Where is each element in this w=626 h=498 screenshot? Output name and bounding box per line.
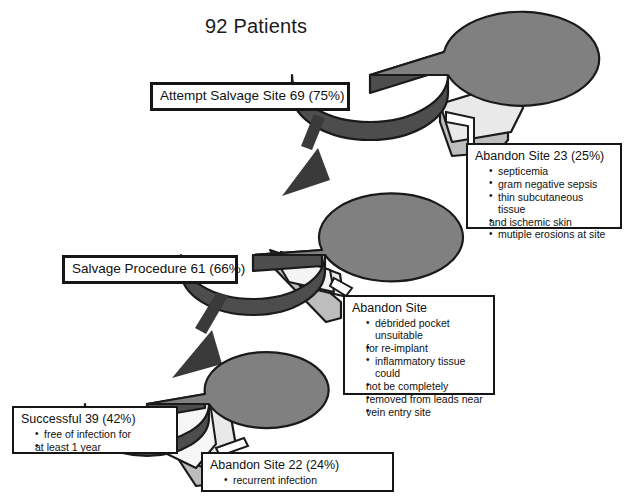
list-item-line: not be completely <box>366 380 486 392</box>
list-item-continuation: not be completely <box>366 380 486 392</box>
list-item-line: vein entry site <box>366 406 486 418</box>
list-item-line: for re-implant <box>366 342 486 354</box>
callout-abandon-site-2-label: Abandon Site <box>352 301 486 316</box>
diagram-canvas: 92 Patients Attempt Salvage Site 69 (75%… <box>0 0 626 498</box>
callout-abandon-site-3-bullets: recurrent infection <box>210 474 385 486</box>
callout-successful-label: Successful 39 (42%) <box>21 412 169 427</box>
list-item-continuation: removed from leads near <box>366 393 486 405</box>
list-item-line: free of infection for <box>44 428 131 440</box>
pie-1-main-slice-top <box>370 12 599 106</box>
callout-abandon-site-3-label: Abandon Site 22 (24%) <box>210 458 385 473</box>
list-item-continuation: at least 1 year <box>35 441 169 453</box>
callout-successful[interactable]: Successful 39 (42%) free of infection fo… <box>12 406 178 454</box>
list-item: septicemia <box>489 165 613 177</box>
callout-abandon-site-1-bullets: septicemia gram negative sepsis thin sub… <box>475 165 613 241</box>
list-item-continuation: and ischemic skin <box>489 216 613 228</box>
list-item-line: inflammatory tissue could <box>375 355 465 379</box>
callout-abandon-site-3[interactable]: Abandon Site 22 (24%) recurrent infectio… <box>201 452 394 492</box>
list-item-continuation: for re-implant <box>366 342 486 354</box>
list-item-continuation: vein entry site <box>366 406 486 418</box>
list-item: inflammatory tissue could <box>366 355 486 380</box>
callout-attempt-salvage-site-label: Attempt Salvage Site 69 (75%) <box>160 88 345 104</box>
list-item: gram negative sepsis <box>489 178 613 190</box>
callout-abandon-site-1-label: Abandon Site 23 (25%) <box>475 149 613 164</box>
list-item: thin subcutaneous tissue <box>489 191 613 216</box>
list-item-line: débrided pocket unsuitable <box>375 317 450 341</box>
callout-salvage-procedure[interactable]: Salvage Procedure 61 (66%) <box>62 255 238 284</box>
list-item-line: and ischemic skin <box>489 216 613 228</box>
list-item: free of infection for <box>35 428 169 440</box>
list-item-line: at least 1 year <box>35 441 169 453</box>
list-item: débrided pocket unsuitable <box>366 317 486 342</box>
list-item-line: removed from leads near <box>366 393 486 405</box>
list-item: recurrent infection <box>224 474 385 486</box>
callout-successful-bullets: free of infection for at least 1 year <box>21 428 169 453</box>
callout-abandon-site-2[interactable]: Abandon Site débrided pocket unsuitable … <box>343 295 495 395</box>
callout-salvage-procedure-label: Salvage Procedure 61 (66%) <box>72 261 245 277</box>
list-item-line: thin subcutaneous tissue <box>498 191 583 215</box>
callout-abandon-site-1[interactable]: Abandon Site 23 (25%) septicemia gram ne… <box>466 143 622 229</box>
list-item: mutiple erosions at site <box>489 228 613 240</box>
callout-abandon-site-2-bullets: débrided pocket unsuitable for re-implan… <box>352 317 486 418</box>
callout-attempt-salvage-site[interactable]: Attempt Salvage Site 69 (75%) <box>150 82 350 111</box>
page-title: 92 Patients <box>205 15 307 38</box>
